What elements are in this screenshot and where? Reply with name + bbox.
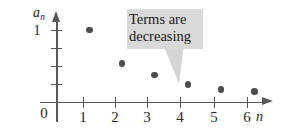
y-axis-title: an bbox=[33, 6, 45, 20]
x-axis-tick-5 bbox=[214, 97, 216, 108]
x-axis-tick-1 bbox=[83, 97, 85, 108]
data-point bbox=[251, 88, 258, 95]
x-axis-label-2: 2 bbox=[105, 110, 125, 125]
data-point bbox=[86, 27, 93, 34]
callout-label: Terms are decreasing bbox=[129, 11, 205, 45]
x-axis-arrow-icon bbox=[262, 97, 273, 105]
data-point bbox=[185, 81, 192, 88]
y-axis-tick-4 bbox=[51, 84, 62, 86]
y-axis-tick-3 bbox=[51, 66, 62, 68]
y-axis-label-1: 1 bbox=[30, 23, 44, 38]
y-axis-title-subscript: n bbox=[40, 12, 45, 22]
data-point bbox=[119, 60, 126, 67]
data-point bbox=[151, 72, 158, 79]
y-axis-arrow-icon bbox=[52, 11, 60, 22]
x-axis-label-1: 1 bbox=[73, 110, 93, 125]
x-axis-tick-6 bbox=[247, 97, 249, 108]
origin-label: 0 bbox=[37, 106, 51, 121]
y-axis-title-base: a bbox=[33, 5, 40, 20]
x-axis-label-5: 5 bbox=[204, 110, 224, 125]
x-axis-line bbox=[40, 102, 268, 104]
x-axis-label-6: 6 bbox=[237, 110, 257, 125]
y-axis-line bbox=[56, 18, 58, 122]
x-axis-title: n bbox=[256, 110, 263, 124]
x-axis-tick-4 bbox=[180, 97, 182, 108]
data-point bbox=[218, 86, 225, 93]
x-axis-label-3: 3 bbox=[137, 110, 157, 125]
x-axis-tick-3 bbox=[147, 97, 149, 108]
y-axis-tick-2 bbox=[51, 48, 62, 50]
sequence-scatter-figure: an n 0 1 1 2 3 4 5 6 Terms are decreasin… bbox=[0, 0, 287, 138]
callout-tail bbox=[163, 44, 184, 84]
x-axis-label-4: 4 bbox=[170, 110, 190, 125]
x-axis-tick-2 bbox=[115, 97, 117, 108]
y-axis-tick-1 bbox=[51, 30, 62, 32]
